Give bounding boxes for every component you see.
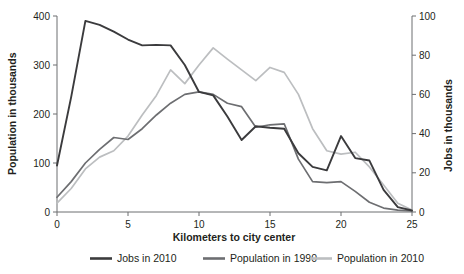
y-tick-label-right: 0 bbox=[419, 207, 425, 218]
chart-container: 05101520250100200300400020406080100 Popu… bbox=[0, 0, 464, 274]
legend-label: Population in 1990 bbox=[230, 252, 317, 264]
axes-group: 05101520250100200300400020406080100 bbox=[33, 11, 436, 231]
y-axis-left-title: Population in thousands bbox=[6, 52, 18, 175]
x-tick-label: 25 bbox=[406, 219, 418, 230]
y-tick-label-left: 200 bbox=[33, 109, 50, 120]
data-series-group bbox=[57, 21, 412, 211]
y-tick-label-left: 100 bbox=[33, 158, 50, 169]
line-chart-svg: 05101520250100200300400020406080100 Popu… bbox=[0, 0, 464, 274]
y-axis-right-title: Jobs in thousands bbox=[442, 79, 454, 172]
x-tick-label: 0 bbox=[54, 219, 60, 230]
y-tick-label-left: 300 bbox=[33, 60, 50, 71]
legend-label: Population in 2010 bbox=[337, 252, 424, 264]
x-tick-label: 20 bbox=[335, 219, 347, 230]
y-tick-label-right: 60 bbox=[419, 89, 431, 100]
x-axis-title: Kilometers to city center bbox=[173, 231, 296, 243]
series-line-jobs-in-2010 bbox=[57, 21, 412, 211]
x-tick-label: 5 bbox=[125, 219, 131, 230]
y-tick-label-right: 40 bbox=[419, 128, 431, 139]
y-tick-label-right: 100 bbox=[419, 11, 436, 22]
x-tick-label: 10 bbox=[193, 219, 205, 230]
y-tick-label-right: 80 bbox=[419, 50, 431, 61]
y-tick-label-right: 20 bbox=[419, 167, 431, 178]
y-tick-label-left: 400 bbox=[33, 11, 50, 22]
y-tick-label-left: 0 bbox=[44, 207, 50, 218]
legend-label: Jobs in 2010 bbox=[117, 252, 177, 264]
legend: Jobs in 2010Population in 1990Population… bbox=[90, 252, 424, 264]
x-tick-label: 15 bbox=[264, 219, 276, 230]
